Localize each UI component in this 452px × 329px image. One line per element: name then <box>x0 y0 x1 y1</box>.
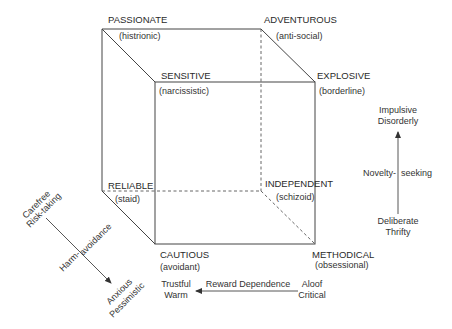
vertex-explosive-label: EXPLOSIVE <box>317 70 370 81</box>
cube-front-face <box>155 82 315 244</box>
vertex-methodical-label: METHODICAL <box>312 249 374 260</box>
vertex-adventurous-sublabel: (anti-social) <box>276 31 323 41</box>
vertex-passionate-sublabel: (histrionic) <box>119 31 161 41</box>
vertex-sensitive-label: SENSITIVE <box>161 70 211 81</box>
novelty-label-right: seeking <box>401 168 432 178</box>
harm-label-right: avoidance <box>77 221 113 257</box>
reward-high-line1: Trustful <box>161 279 191 289</box>
reward-low-line1: Aloof <box>302 279 323 289</box>
reward-dependence-label: Reward Dependence <box>206 279 291 289</box>
vertex-passionate-label: PASSIONATE <box>108 14 167 25</box>
personality-cube-diagram: PASSIONATE (histrionic) ADVENTUROUS (ant… <box>0 0 452 329</box>
novelty-high-line2: Disorderly <box>378 116 419 126</box>
cube <box>102 29 315 244</box>
vertex-explosive-sublabel: (borderline) <box>319 86 365 96</box>
harm-avoidance-axis: Carefree Risk-taking Harm- avoidance Anx… <box>20 189 146 320</box>
vertex-adventurous-label: ADVENTUROUS <box>264 14 337 25</box>
vertex-cautious-label: CAUTIOUS <box>160 249 209 260</box>
novelty-seeking-axis: Impulsive Disorderly Novelty- seeking De… <box>363 105 432 237</box>
vertex-reliable-label: RELIABLE <box>108 180 153 191</box>
vertex-sensitive-sublabel: (narcissistic) <box>159 86 209 96</box>
vertex-reliable-sublabel: (staid) <box>115 194 140 204</box>
novelty-low-line1: Deliberate <box>377 216 418 226</box>
reward-high-line2: Warm <box>164 290 188 300</box>
vertex-methodical-sublabel: (obsessional) <box>315 260 369 270</box>
vertex-independent-sublabel: (schizoid) <box>276 192 315 202</box>
novelty-label-left: Novelty- <box>363 168 396 178</box>
novelty-low-line2: Thrifty <box>385 227 411 237</box>
reward-low-line2: Critical <box>298 290 326 300</box>
vertex-independent-label: INDEPENDENT <box>265 178 333 189</box>
diagram-svg: PASSIONATE (histrionic) ADVENTUROUS (ant… <box>0 0 452 329</box>
vertex-cautious-sublabel: (avoidant) <box>160 262 200 272</box>
reward-dependence-axis: Reward Dependence Trustful Warm Aloof Cr… <box>161 279 326 300</box>
novelty-high-line1: Impulsive <box>379 105 417 115</box>
